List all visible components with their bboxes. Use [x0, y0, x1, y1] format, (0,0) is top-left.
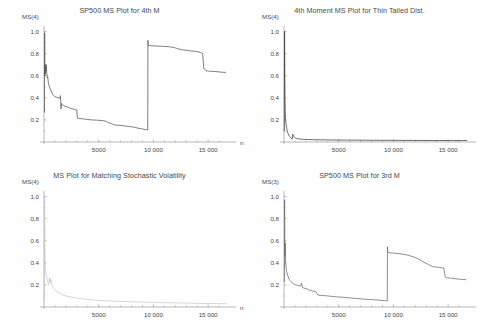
y-tick-label: 0.4: [30, 94, 39, 101]
plot-svg-top-left: 0.20.40.60.81.0500010 00015 000MS(4)n: [0, 0, 239, 165]
y-tick-label: 0.4: [270, 259, 279, 266]
y-tick-label: 0.6: [30, 237, 39, 244]
chart-panel-top-left: SP500 MS Plot for 4th M 0.20.40.60.81.05…: [0, 0, 239, 165]
x-tick-label: 5000: [332, 146, 346, 153]
ms-plot-figure: SP500 MS Plot for 4th M 0.20.40.60.81.05…: [0, 0, 479, 330]
x-tick-label: 5000: [332, 311, 346, 318]
x-tick-label: 10 000: [384, 146, 403, 153]
x-tick-label: 15 000: [439, 146, 458, 153]
y-tick-label: 0.2: [270, 116, 279, 123]
y-axis-label: MS(4): [22, 178, 39, 185]
x-tick-label: 15 000: [439, 311, 458, 318]
y-axis-label: MS(3): [262, 178, 279, 185]
chart-panel-top-right: 4th Moment MS Plot for Thin Tailed Dist.…: [240, 0, 479, 165]
data-curve: [44, 197, 226, 304]
y-tick-label: 0.8: [30, 50, 39, 57]
plot-svg-top-right: 0.20.40.60.81.0500010 00015 000MS(4)n: [240, 0, 479, 165]
y-axis-label: MS(4): [262, 13, 279, 20]
x-tick-label: 10 000: [144, 311, 163, 318]
y-tick-label: 0.2: [30, 281, 39, 288]
x-tick-label: 15 000: [199, 311, 218, 318]
chart-panel-bottom-right: SP500 MS Plot for 3rd M 0.20.40.60.81.05…: [240, 165, 479, 330]
x-tick-label: 5000: [92, 311, 106, 318]
x-tick-label: 10 000: [144, 146, 163, 153]
x-tick-label: 5000: [92, 146, 106, 153]
data-curve: [284, 200, 465, 301]
y-tick-label: 0.4: [270, 94, 279, 101]
y-tick-label: 0.8: [270, 50, 279, 57]
y-tick-label: 0.6: [30, 72, 39, 79]
plot-svg-bottom-left: 0.20.40.60.81.0500010 00015 000MS(4)n: [0, 165, 239, 330]
y-tick-label: 0.6: [270, 72, 279, 79]
data-curve: [44, 33, 225, 130]
x-tick-label: 15 000: [199, 146, 218, 153]
y-tick-label: 1.0: [30, 193, 39, 200]
y-axis-label: MS(4): [22, 13, 39, 20]
y-tick-label: 0.8: [270, 215, 279, 222]
y-tick-label: 0.2: [30, 116, 39, 123]
y-tick-label: 1.0: [270, 28, 279, 35]
y-tick-label: 0.8: [30, 215, 39, 222]
chart-panel-bottom-left: MS Plot for Matching Stochastic Volatili…: [0, 165, 239, 330]
y-tick-label: 0.4: [30, 259, 39, 266]
plot-svg-bottom-right: 0.20.40.60.81.0500010 00015 000MS(3)n: [240, 165, 479, 330]
y-tick-label: 0.2: [270, 281, 279, 288]
y-tick-label: 1.0: [30, 28, 39, 35]
data-curve: [284, 32, 466, 141]
x-tick-label: 10 000: [384, 311, 403, 318]
y-tick-label: 0.6: [270, 237, 279, 244]
y-tick-label: 1.0: [270, 193, 279, 200]
